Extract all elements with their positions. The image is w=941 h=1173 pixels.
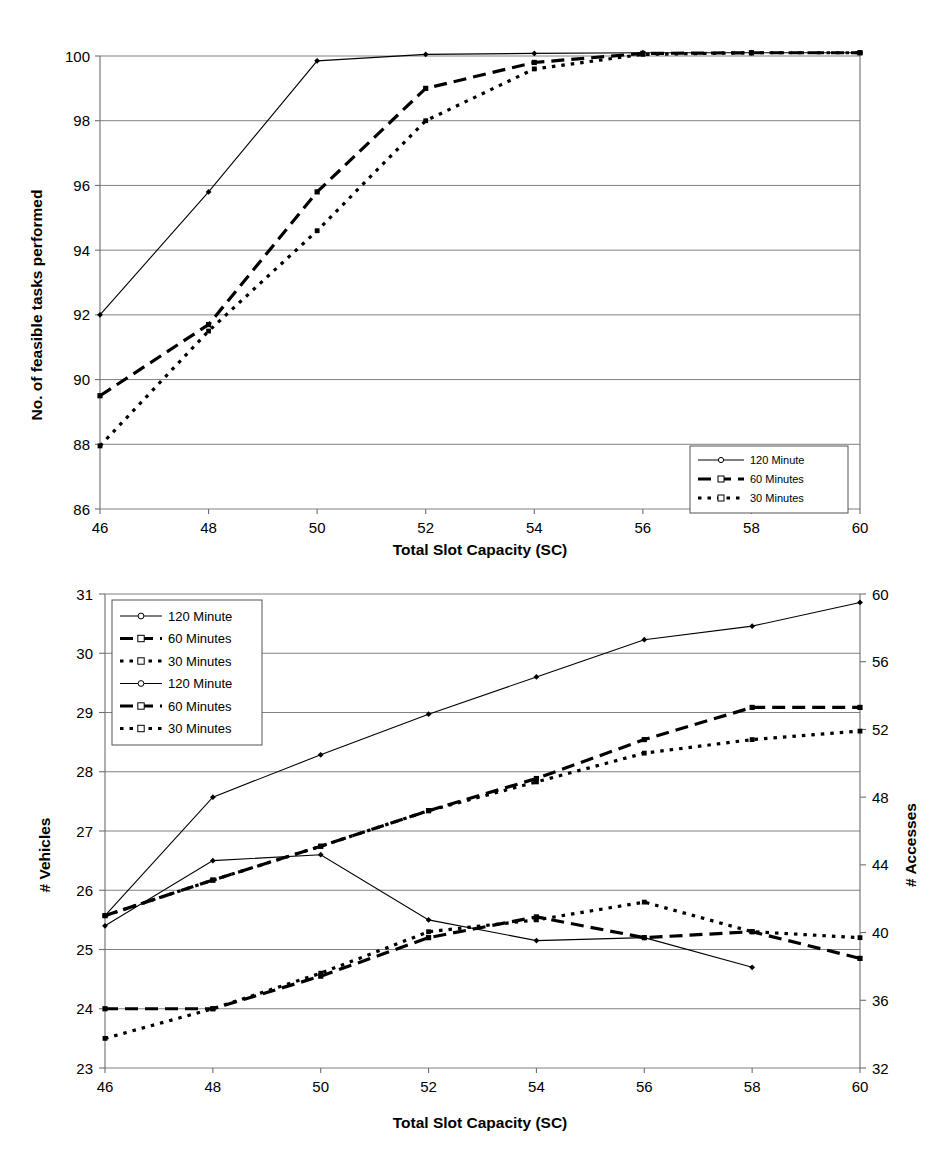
data-point-marker xyxy=(423,86,428,91)
top-chart-legend[interactable]: 120 Minute60 Minutes30 Minutes xyxy=(690,446,848,513)
data-point-marker xyxy=(532,67,537,72)
y-tick-label: 96 xyxy=(73,177,90,194)
x-tick-label: 60 xyxy=(852,1078,869,1095)
bottom-chart-right-y-axis-title: # Accesses xyxy=(902,803,919,887)
y-tick-label: 24 xyxy=(76,1000,93,1017)
y-tick-label: 86 xyxy=(73,501,90,518)
legend-point-marker xyxy=(718,476,724,482)
data-point-marker xyxy=(532,60,537,65)
data-point-marker xyxy=(750,737,755,742)
data-point-marker xyxy=(97,393,102,398)
y-tick-label: 30 xyxy=(76,645,93,662)
x-tick-label: 48 xyxy=(200,519,217,536)
y-tick-label: 92 xyxy=(73,306,90,323)
right-y-tick-label: 48 xyxy=(872,789,889,806)
data-point-marker xyxy=(858,729,863,734)
data-point-marker xyxy=(103,1036,108,1041)
legend-point-marker xyxy=(138,613,144,619)
x-tick-label: 56 xyxy=(636,1078,653,1095)
data-point-marker xyxy=(210,878,215,883)
legend-point-marker xyxy=(718,495,724,501)
data-point-marker xyxy=(858,935,863,940)
data-point-marker xyxy=(857,956,862,961)
y-tick-label: 27 xyxy=(76,823,93,840)
x-tick-label: 50 xyxy=(312,1078,329,1095)
legend-point-marker xyxy=(138,658,144,664)
data-point-marker xyxy=(206,322,211,327)
y-tick-label: 29 xyxy=(76,704,93,721)
data-point-marker xyxy=(318,844,323,849)
right-y-tick-label: 32 xyxy=(872,1060,889,1077)
data-point-marker xyxy=(750,929,755,934)
legend-item-label: 30 Minutes xyxy=(168,654,232,669)
legend-item-label: 120 Minute xyxy=(750,454,804,466)
legend-item-label: 60 Minutes xyxy=(168,631,232,646)
data-point-marker xyxy=(318,971,323,976)
data-point-marker xyxy=(426,808,431,813)
x-tick-label: 54 xyxy=(526,519,543,536)
x-tick-label: 58 xyxy=(743,519,760,536)
data-point-marker xyxy=(315,189,320,194)
x-tick-label: 46 xyxy=(92,519,109,536)
data-point-marker xyxy=(750,705,755,710)
legend-point-marker xyxy=(138,635,144,641)
y-tick-label: 28 xyxy=(76,763,93,780)
data-point-marker xyxy=(210,1006,215,1011)
data-point-marker xyxy=(426,929,431,934)
legend-point-marker xyxy=(138,681,144,687)
data-point-marker xyxy=(858,50,863,55)
legend-item-label: 60 Minutes xyxy=(750,473,804,485)
data-point-marker xyxy=(534,917,539,922)
data-point-marker xyxy=(642,751,647,756)
figure-container: 10098969492908886 4648505254565860 No. o… xyxy=(0,0,941,1173)
y-tick-label: 31 xyxy=(76,586,93,603)
bottom-chart-x-axis-title: Total Slot Capacity (SC) xyxy=(393,1114,568,1131)
page-background xyxy=(0,0,941,1173)
data-point-marker xyxy=(642,737,647,742)
legend-point-marker xyxy=(138,725,144,731)
top-chart-x-axis-title: Total Slot Capacity (SC) xyxy=(393,541,568,558)
y-tick-label: 26 xyxy=(76,882,93,899)
y-tick-label: 94 xyxy=(73,242,90,259)
x-tick-label: 50 xyxy=(309,519,326,536)
y-tick-label: 100 xyxy=(65,48,90,65)
data-point-marker xyxy=(642,900,647,905)
data-point-marker xyxy=(426,935,431,940)
data-point-marker xyxy=(102,1006,107,1011)
legend-point-marker xyxy=(718,457,723,462)
x-tick-label: 54 xyxy=(528,1078,545,1095)
right-y-tick-label: 56 xyxy=(872,653,889,670)
x-tick-label: 60 xyxy=(852,519,869,536)
data-point-marker xyxy=(423,118,428,123)
data-point-marker xyxy=(103,913,108,918)
y-tick-label: 88 xyxy=(73,436,90,453)
y-tick-label: 90 xyxy=(73,371,90,388)
x-tick-label: 58 xyxy=(744,1078,761,1095)
right-y-tick-label: 36 xyxy=(872,992,889,1009)
data-point-marker xyxy=(640,52,645,57)
data-point-marker xyxy=(98,444,103,449)
x-tick-label: 52 xyxy=(417,519,434,536)
legend-item-label: 30 Minutes xyxy=(750,492,804,504)
data-point-marker xyxy=(315,228,320,233)
right-y-tick-label: 60 xyxy=(872,586,889,603)
legend-item-label: 120 Minute xyxy=(168,676,232,691)
y-tick-label: 25 xyxy=(76,941,93,958)
data-point-marker xyxy=(534,780,539,785)
legend-item-label: 30 Minutes xyxy=(168,721,232,736)
bottom-chart-legend[interactable]: 120 Minute60 Minutes30 Minutes120 Minute… xyxy=(112,600,262,745)
x-tick-label: 48 xyxy=(205,1078,222,1095)
bottom-chart-y-tick-labels: 313029282726252423 xyxy=(76,586,93,1077)
bottom-chart-y-axis-title: # Vehicles xyxy=(36,818,53,893)
data-point-marker xyxy=(749,50,754,55)
right-y-tick-label: 52 xyxy=(872,721,889,738)
legend-point-marker xyxy=(138,703,144,709)
data-point-marker xyxy=(642,935,647,940)
x-tick-label: 52 xyxy=(420,1078,437,1095)
x-tick-label: 46 xyxy=(97,1078,114,1095)
legend-item-label: 120 Minute xyxy=(168,609,232,624)
charts-svg: 10098969492908886 4648505254565860 No. o… xyxy=(0,0,941,1173)
right-y-tick-label: 44 xyxy=(872,856,889,873)
legend-item-label: 60 Minutes xyxy=(168,699,232,714)
y-tick-label: 23 xyxy=(76,1060,93,1077)
